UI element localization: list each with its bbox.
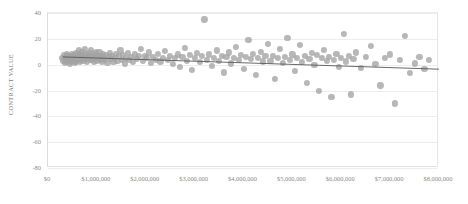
x-tick-label: $6,000,000 — [326, 175, 355, 182]
x-tick-label: $8,000,000 — [424, 175, 453, 182]
x-tick-label: $3,000,000 — [179, 175, 208, 182]
x-tick-label: $1,000,000 — [81, 175, 110, 182]
scatter-chart: CONTRACT VALUE 40200-20-40-60-80 $0$1,00… — [0, 0, 468, 204]
x-tick-label: $5,000,000 — [277, 175, 306, 182]
x-tick-label: $2,000,000 — [130, 175, 159, 182]
y-axis-title: CONTRACT VALUE — [2, 0, 20, 168]
x-tick-label: $4,000,000 — [228, 175, 257, 182]
x-tick-label: $7,000,000 — [375, 175, 404, 182]
plot-area — [47, 12, 438, 167]
y-axis-title-text: CONTRACT VALUE — [8, 53, 15, 114]
gridline — [48, 168, 437, 169]
x-tick-label: $0 — [44, 175, 50, 182]
trend-line — [48, 13, 439, 168]
